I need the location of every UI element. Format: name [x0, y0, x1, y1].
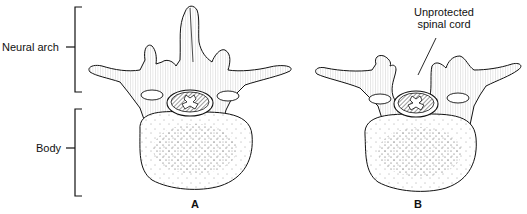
- unprotected-label-line1: Unprotected: [408, 6, 480, 18]
- unprotected-spinal-cord-label: Unprotected spinal cord: [408, 6, 480, 30]
- body-label: Body: [36, 142, 61, 155]
- vertebra-b: [316, 38, 521, 191]
- neural-arch-label: Neural arch: [2, 41, 59, 54]
- caption-b: B: [414, 198, 422, 210]
- neural-arch-bracket: [66, 7, 82, 92]
- vertebra-a: [89, 6, 291, 189]
- unprotected-label-line2: spinal cord: [408, 18, 480, 30]
- vertebrae-diagram: [0, 0, 527, 214]
- caption-a: A: [191, 198, 199, 210]
- body-bracket: [66, 109, 82, 196]
